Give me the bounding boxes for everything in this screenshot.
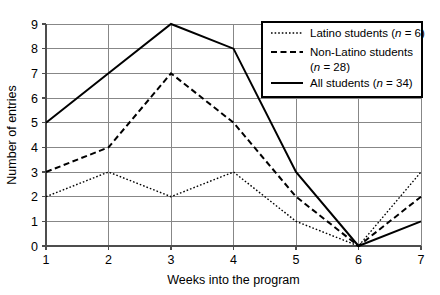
legend-label-head: All students (	[310, 77, 377, 89]
y-tick-label: 0	[31, 240, 38, 254]
x-tick-label: 2	[105, 253, 112, 267]
x-tick-label: 7	[418, 253, 425, 267]
legend-label-1: Latino students (n = 6)	[310, 27, 425, 39]
y-tick-label: 8	[31, 42, 38, 56]
line-chart-figure: 01234567891234567Weeks into the programN…	[0, 0, 440, 295]
y-tick-label: 1	[31, 215, 38, 229]
x-tick-label: 4	[230, 253, 237, 267]
x-tick-label: 1	[43, 253, 50, 267]
legend-label-line1: Non-Latino students	[310, 46, 413, 58]
y-tick-label: 4	[31, 141, 38, 155]
y-tick-label: 9	[31, 18, 38, 32]
legend-label-3: All students (n = 34)	[310, 77, 413, 89]
legend-label-tail: = 6)	[401, 27, 425, 39]
x-tick-label: 6	[355, 253, 362, 267]
legend: Latino students (n = 6)Non-Latino studen…	[262, 22, 425, 97]
y-tick-label: 5	[31, 116, 38, 130]
chart-canvas: 01234567891234567Weeks into the programN…	[0, 0, 440, 295]
x-axis-title: Weeks into the program	[167, 273, 299, 287]
legend-label-tail: = 28)	[320, 61, 350, 73]
y-tick-label: 6	[31, 92, 38, 106]
legend-label-head: Latino students (	[310, 27, 395, 39]
legend-label-tail: = 34)	[383, 77, 413, 89]
x-tick-label: 5	[293, 253, 300, 267]
x-tick-label: 3	[168, 253, 175, 267]
y-tick-label: 7	[31, 67, 38, 81]
y-axis-title: Number of entries	[5, 85, 19, 184]
y-tick-label: 2	[31, 190, 38, 204]
y-tick-label: 3	[31, 166, 38, 180]
